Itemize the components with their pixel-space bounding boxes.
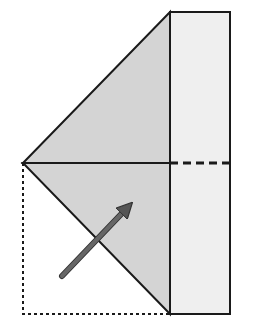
folding-diagram [0, 0, 255, 331]
upper-flap-triangle [23, 12, 170, 163]
